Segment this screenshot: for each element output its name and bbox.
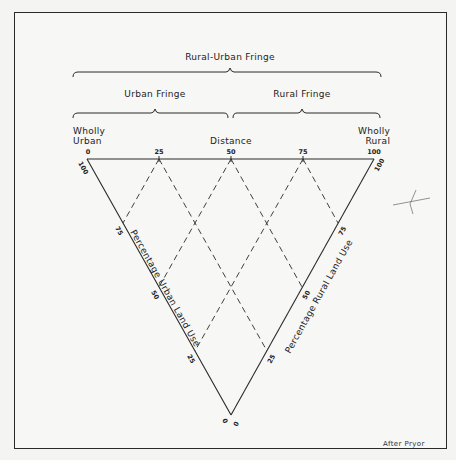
urban-axis-tick: 100 [76,160,90,176]
urban-fringe-label: Urban Fringe [124,89,185,99]
rural-axis-tick: 25 [266,353,278,365]
distance-label: Distance [210,136,252,146]
distance-tick-100: 100 [367,148,381,156]
rural-fringe-label: Rural Fringe [273,89,330,99]
urban-axis-tick: 0 [220,417,229,425]
urban-axis-label: Percentage Urban Land Use [128,228,202,349]
outer-bracket [73,68,381,77]
urban-axis-tick: 75 [113,225,125,237]
urban-fringe-bracket [73,109,228,118]
wholly-rural-label: Wholly Rural [358,126,390,146]
distance-tick-75: 75 [298,148,307,156]
distance-tick-0: 0 [86,148,91,156]
credit-label: After Pryor [383,440,425,448]
distance-tick-50: 50 [226,148,235,156]
urban-axis-tick: 50 [149,289,161,301]
urban-axis-tick: 25 [185,353,197,365]
wholly-urban-label: Wholly Urban [73,126,105,146]
rural-axis-tick: 0 [232,420,241,428]
triangle-diagram: Percentage Urban Land Use Percentage Rur… [0,0,456,460]
distance-tick-25: 25 [154,148,163,156]
rural-axis-tick: 100 [373,157,387,173]
rural-axis-tick: 75 [337,225,349,237]
rural-fringe-bracket [233,109,380,118]
outer-bracket-label: Rural-Urban Fringe [185,52,275,62]
rural-axis-label: Percentage Rural Land Use [283,238,355,355]
